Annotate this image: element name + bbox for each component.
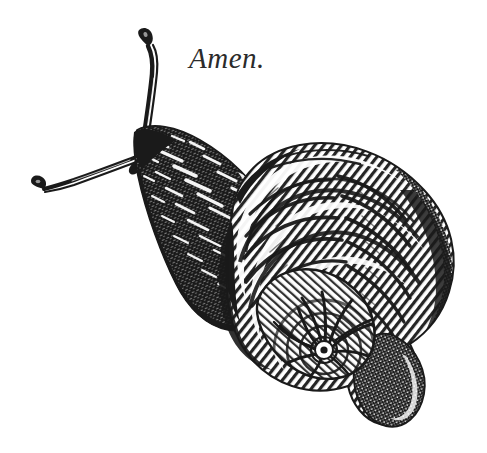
illustration-page: Amen. (0, 0, 487, 453)
page-title: Amen. (189, 44, 265, 73)
